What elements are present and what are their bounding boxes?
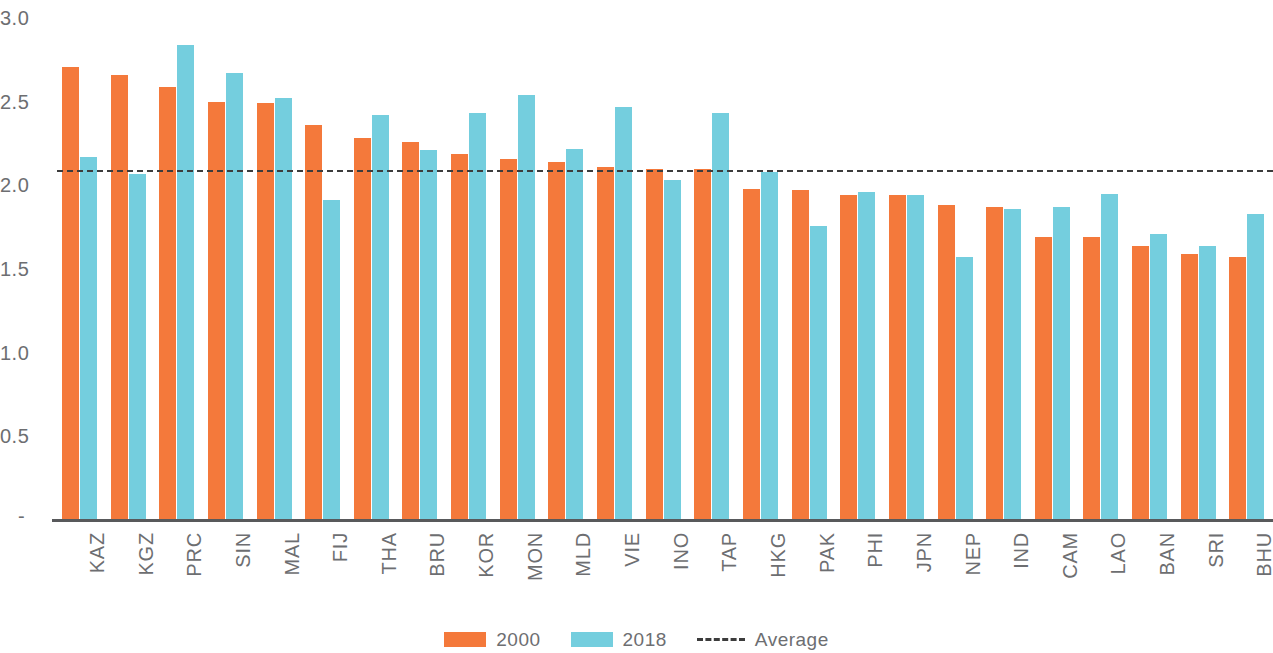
bar-nep-2000: [938, 205, 955, 520]
legend-item-2018[interactable]: 2018: [571, 630, 667, 649]
x-axis-label-kaz: KAZ: [87, 532, 107, 622]
x-axis-label-jpn: JPN: [914, 532, 934, 622]
x-axis-label-mld: MLD: [573, 532, 593, 622]
bar-kgz-2018: [129, 174, 146, 520]
bar-group: [646, 18, 695, 520]
bar-group: [1083, 18, 1132, 520]
bar-kgz-2000: [111, 75, 128, 520]
bar-ban-2018: [1150, 234, 1167, 520]
blue-square-swatch: [571, 632, 613, 647]
bar-lao-2018: [1101, 194, 1118, 520]
y-axis-tick-label: 1.5: [0, 259, 46, 279]
bar-fij-2000: [305, 125, 322, 520]
x-axis-label-vie: VIE: [622, 532, 642, 622]
bar-hkg-2000: [743, 189, 760, 520]
bar-group: [257, 18, 306, 520]
bar-tha-2000: [354, 138, 371, 520]
bar-mon-2000: [500, 159, 517, 520]
x-axis-label-tha: THA: [379, 532, 399, 622]
bar-kaz-2000: [62, 67, 79, 520]
x-axis-label-bhu: BHU: [1254, 532, 1273, 622]
bar-mal-2000: [257, 103, 274, 520]
bar-tap-2018: [712, 113, 729, 520]
orange-square-swatch: [444, 632, 486, 647]
bar-nep-2018: [956, 257, 973, 520]
bar-group: [1035, 18, 1084, 520]
x-axis-label-fij: FIJ: [330, 532, 350, 622]
bar-group: [889, 18, 938, 520]
bar-kaz-2018: [80, 157, 97, 520]
bar-cam-2000: [1035, 237, 1052, 520]
bar-phi-2000: [840, 195, 857, 520]
bar-group: [840, 18, 889, 520]
x-axis-label-ind: IND: [1011, 532, 1031, 622]
x-axis-label-kgz: KGZ: [136, 532, 156, 622]
legend-label: 2000: [496, 630, 540, 649]
bar-fij-2018: [323, 200, 340, 520]
bar-ind-2000: [986, 207, 1003, 520]
y-axis-tick-label: 2.5: [0, 92, 46, 112]
bar-group: [305, 18, 354, 520]
dashed-line-icon: [697, 638, 745, 641]
bar-group: [938, 18, 987, 520]
bar-group: [451, 18, 500, 520]
bar-group: [62, 18, 111, 520]
x-axis-label-phi: PHI: [865, 532, 885, 622]
x-axis-label-bru: BRU: [427, 532, 447, 622]
x-axis-label-prc: PRC: [184, 532, 204, 622]
bar-group: [500, 18, 549, 520]
y-axis-tick-label: 2.0: [0, 175, 46, 195]
bar-ino-2000: [646, 169, 663, 520]
x-axis-label-mon: MON: [525, 532, 545, 622]
bar-prc-2000: [159, 87, 176, 520]
bar-mld-2000: [548, 162, 565, 520]
legend-item-2000[interactable]: 2000: [444, 630, 540, 649]
bar-group: [548, 18, 597, 520]
bar-kor-2018: [469, 113, 486, 520]
bar-mld-2018: [566, 149, 583, 520]
bar-group: [1132, 18, 1181, 520]
y-axis-tick-label: 1.0: [0, 343, 46, 363]
bar-kor-2000: [451, 154, 468, 520]
bar-bhu-2000: [1229, 257, 1246, 520]
bar-mon-2018: [518, 95, 535, 520]
x-axis-label-hkg: HKG: [768, 532, 788, 622]
bar-group: [159, 18, 208, 520]
x-axis-label-sri: SRI: [1206, 532, 1226, 622]
bar-tha-2018: [372, 115, 389, 520]
x-axis-label-pak: PAK: [817, 532, 837, 622]
bar-cam-2018: [1053, 207, 1070, 520]
x-axis-label-kor: KOR: [476, 532, 496, 622]
bar-ino-2018: [664, 180, 681, 520]
bar-jpn-2018: [907, 195, 924, 520]
bar-vie-2018: [615, 107, 632, 520]
bar-pak-2000: [792, 190, 809, 520]
x-axis-label-ino: INO: [671, 532, 691, 622]
x-axis-label-sin: SIN: [233, 532, 253, 622]
bar-group: [354, 18, 403, 520]
x-axis-label-tap: TAP: [719, 532, 739, 622]
y-axis-tick-label: -: [18, 506, 25, 526]
y-axis-tick-label: 0.5: [0, 426, 46, 446]
bar-pak-2018: [810, 226, 827, 521]
bar-ban-2000: [1132, 246, 1149, 520]
bar-group: [208, 18, 257, 520]
plot-area: [57, 18, 1273, 520]
chart-legend: 20002018Average: [0, 626, 1273, 653]
average-reference-line: [57, 170, 1273, 172]
bar-sri-2000: [1181, 254, 1198, 520]
bar-prc-2018: [177, 45, 194, 520]
bar-group: [1229, 18, 1273, 520]
legend-item-average[interactable]: Average: [697, 630, 829, 649]
bar-bru-2018: [420, 150, 437, 520]
x-axis-baseline: [52, 519, 1273, 522]
bar-sin-2018: [226, 73, 243, 520]
bar-group: [111, 18, 160, 520]
bar-group: [597, 18, 646, 520]
x-axis-label-mal: MAL: [282, 532, 302, 622]
bar-lao-2000: [1083, 237, 1100, 520]
bar-bru-2000: [402, 142, 419, 520]
bar-group: [743, 18, 792, 520]
legend-label: Average: [755, 630, 829, 649]
bar-vie-2000: [597, 167, 614, 520]
